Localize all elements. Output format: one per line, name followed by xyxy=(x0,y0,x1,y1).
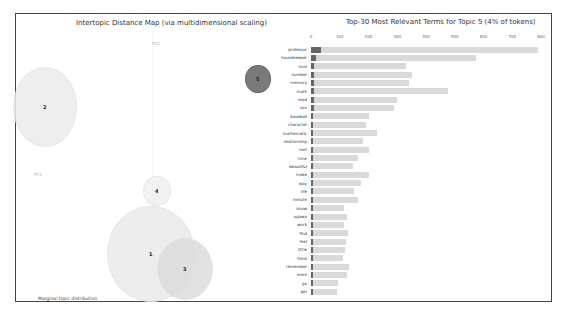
overall-frequency-bar[interactable] xyxy=(311,155,358,161)
overall-frequency-bar[interactable] xyxy=(311,63,406,69)
overall-frequency-bar[interactable] xyxy=(311,180,361,186)
topic-frequency-bar[interactable] xyxy=(311,97,314,103)
overall-frequency-bar[interactable] xyxy=(311,72,412,78)
term-label[interactable]: way xyxy=(299,180,307,187)
ldavis-frame: Intertopic Distance Map (via multidimens… xyxy=(15,13,552,302)
overall-frequency-bar[interactable] xyxy=(311,80,409,86)
topic-frequency-bar[interactable] xyxy=(311,180,313,186)
term-label[interactable]: remember xyxy=(286,263,307,270)
overall-frequency-bar[interactable] xyxy=(311,289,337,295)
overall-frequency-bar[interactable] xyxy=(311,264,349,270)
term-label[interactable]: life xyxy=(301,188,307,195)
overall-frequency-bar[interactable] xyxy=(311,205,344,211)
overall-frequency-bar[interactable] xyxy=(311,214,347,220)
topic-frequency-bar[interactable] xyxy=(311,163,313,169)
term-label[interactable]: read xyxy=(298,96,307,103)
topic-frequency-bar[interactable] xyxy=(311,239,313,245)
relevant-terms-title: Top-30 Most Relevant Terms for Topic 5 (… xyxy=(346,18,536,26)
x-tick: 200 xyxy=(365,34,373,39)
topic-frequency-bar[interactable] xyxy=(311,155,313,161)
term-label[interactable]: get xyxy=(300,288,307,295)
topic-label-2: 2 xyxy=(43,104,46,110)
topic-frequency-bar[interactable] xyxy=(311,63,314,69)
pc1-axis-label: PC1 xyxy=(34,172,42,177)
term-label[interactable]: ogawa xyxy=(294,213,307,220)
topic-frequency-bar[interactable] xyxy=(311,122,313,128)
overall-frequency-bar[interactable] xyxy=(311,272,347,278)
term-label[interactable]: make xyxy=(296,171,307,178)
overall-frequency-bar[interactable] xyxy=(311,222,344,228)
term-label[interactable]: think xyxy=(297,255,307,262)
overall-frequency-bar[interactable] xyxy=(311,88,448,94)
x-tick: 300 xyxy=(393,34,401,39)
x-tick: 800 xyxy=(537,34,545,39)
overall-frequency-bar[interactable] xyxy=(311,280,338,286)
topic-frequency-bar[interactable] xyxy=(311,147,313,153)
topic-frequency-bar[interactable] xyxy=(311,280,313,286)
term-label[interactable]: minute xyxy=(293,196,307,203)
term-label[interactable]: find xyxy=(299,230,307,237)
topic-frequency-bar[interactable] xyxy=(311,55,316,61)
topic-frequency-bar[interactable] xyxy=(311,255,313,261)
overall-frequency-bar[interactable] xyxy=(311,97,397,103)
overall-frequency-bar[interactable] xyxy=(311,255,343,261)
term-label[interactable]: housekeeper xyxy=(281,54,307,61)
x-tick: 600 xyxy=(480,34,488,39)
overall-frequency-bar[interactable] xyxy=(311,230,348,236)
topic-label-1: 1 xyxy=(149,251,152,257)
term-label[interactable]: number xyxy=(291,71,307,78)
term-label[interactable]: son xyxy=(300,104,307,111)
topic-frequency-bar[interactable] xyxy=(311,130,313,136)
overall-frequency-bar[interactable] xyxy=(311,47,538,53)
topic-frequency-bar[interactable] xyxy=(311,47,321,53)
topic-frequency-bar[interactable] xyxy=(311,113,313,119)
term-label[interactable]: baseball xyxy=(290,113,307,120)
topic-frequency-bar[interactable] xyxy=(311,247,313,253)
overall-frequency-bar[interactable] xyxy=(311,172,369,178)
overall-frequency-bar[interactable] xyxy=(311,239,346,245)
topic-frequency-bar[interactable] xyxy=(311,214,313,220)
overall-frequency-bar[interactable] xyxy=(311,247,345,253)
overall-frequency-bar[interactable] xyxy=(311,55,476,61)
term-label[interactable]: beautiful xyxy=(289,163,307,170)
overall-frequency-bar[interactable] xyxy=(311,130,377,136)
term-label[interactable]: professor xyxy=(288,46,307,53)
overall-frequency-bar[interactable] xyxy=(311,105,394,111)
topic-frequency-bar[interactable] xyxy=(311,80,314,86)
topic-frequency-bar[interactable] xyxy=(311,264,313,270)
topic-frequency-bar[interactable] xyxy=(311,105,314,111)
overall-frequency-bar[interactable] xyxy=(311,122,366,128)
topic-frequency-bar[interactable] xyxy=(311,272,313,278)
term-label[interactable]: little xyxy=(298,246,307,253)
topic-frequency-bar[interactable] xyxy=(311,230,313,236)
term-label[interactable]: character xyxy=(288,121,307,128)
overall-frequency-bar[interactable] xyxy=(311,188,354,194)
term-label[interactable]: math xyxy=(297,88,307,95)
x-tick: 100 xyxy=(336,34,344,39)
overall-frequency-bar[interactable] xyxy=(311,197,358,203)
topic-frequency-bar[interactable] xyxy=(311,222,313,228)
term-label[interactable]: memory xyxy=(290,79,307,86)
topic-frequency-bar[interactable] xyxy=(311,197,313,203)
term-label[interactable]: relationship xyxy=(283,138,307,145)
term-label[interactable]: love xyxy=(299,63,307,70)
term-label[interactable]: root xyxy=(299,146,307,153)
term-label[interactable]: time xyxy=(298,155,307,162)
topic-frequency-bar[interactable] xyxy=(311,188,313,194)
overall-frequency-bar[interactable] xyxy=(311,138,363,144)
term-label[interactable]: even xyxy=(297,271,307,278)
term-label[interactable]: go xyxy=(302,280,307,287)
topic-frequency-bar[interactable] xyxy=(311,289,313,295)
term-label[interactable]: know xyxy=(296,205,307,212)
term-label[interactable]: work xyxy=(297,221,307,228)
topic-frequency-bar[interactable] xyxy=(311,172,313,178)
topic-frequency-bar[interactable] xyxy=(311,72,314,78)
overall-frequency-bar[interactable] xyxy=(311,163,353,169)
overall-frequency-bar[interactable] xyxy=(311,113,369,119)
topic-frequency-bar[interactable] xyxy=(311,205,313,211)
term-label[interactable]: feel xyxy=(300,238,307,245)
term-label[interactable]: mathematic xyxy=(283,130,307,137)
overall-frequency-bar[interactable] xyxy=(311,147,369,153)
topic-frequency-bar[interactable] xyxy=(311,138,313,144)
topic-frequency-bar[interactable] xyxy=(311,88,314,94)
